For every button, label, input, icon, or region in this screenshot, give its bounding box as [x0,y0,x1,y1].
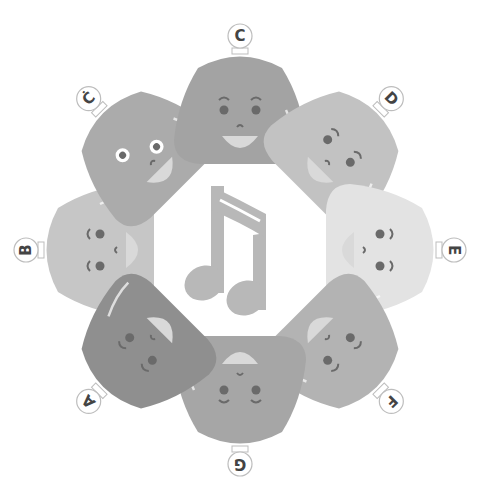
eye [220,386,229,395]
eye [376,230,385,239]
note-label: E [445,245,463,255]
eye [96,230,105,239]
eye [220,106,229,115]
note-label: G [234,455,246,473]
eye [376,262,385,271]
eye [252,386,261,395]
note-label: B [17,244,35,255]
bell-circle-illustration: BĊCDEFGA Solfege bell characters arrange… [0,0,481,496]
music-note-icon [179,186,272,322]
note-label: C [234,27,245,45]
eye [252,106,261,115]
eye [96,262,105,271]
